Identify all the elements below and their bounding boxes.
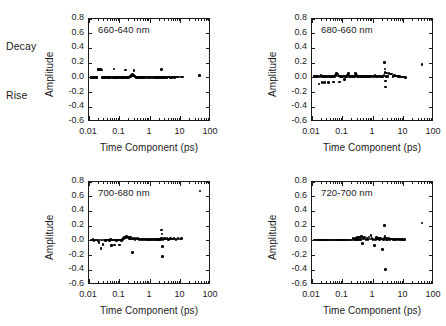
x-minor-tick bbox=[391, 118, 392, 120]
x-minor-tick bbox=[357, 118, 358, 120]
y-tick-label: 0.8 bbox=[275, 12, 307, 22]
x-minor-tick bbox=[118, 281, 119, 283]
x-tick-mark-top bbox=[403, 182, 404, 186]
data-point bbox=[161, 255, 164, 258]
x-minor-tick bbox=[164, 118, 165, 120]
x-minor-tick bbox=[173, 281, 174, 283]
y-tick-label: -0.6 bbox=[52, 278, 84, 288]
y-tick-mark-right bbox=[429, 240, 432, 241]
x-minor-tick-top bbox=[148, 182, 149, 184]
x-minor-tick bbox=[195, 281, 196, 283]
x-tick-mark-top bbox=[180, 19, 181, 23]
y-tick-label: 0.2 bbox=[275, 56, 307, 66]
x-minor-tick-top bbox=[396, 19, 397, 21]
x-minor-tick bbox=[335, 281, 336, 283]
data-point bbox=[160, 229, 163, 232]
x-tick-mark bbox=[180, 116, 181, 120]
x-tick-mark-top bbox=[119, 182, 120, 186]
y-tick-mark-right bbox=[206, 211, 209, 212]
data-point bbox=[118, 244, 121, 247]
y-tick-mark bbox=[89, 211, 92, 212]
panel-title: 680-660 nm bbox=[321, 24, 373, 35]
x-minor-tick-top bbox=[112, 182, 113, 184]
data-point bbox=[421, 222, 424, 225]
x-tick-mark bbox=[373, 279, 374, 283]
y-tick-mark-right bbox=[429, 196, 432, 197]
x-minor-tick bbox=[118, 118, 119, 120]
x-minor-tick bbox=[112, 281, 113, 283]
x-minor-tick-top bbox=[333, 182, 334, 184]
x-minor-tick bbox=[107, 281, 108, 283]
x-tick-mark bbox=[180, 279, 181, 283]
x-minor-tick-top bbox=[363, 182, 364, 184]
x-minor-tick-top bbox=[110, 19, 111, 21]
x-minor-tick bbox=[371, 118, 372, 120]
x-minor-tick bbox=[209, 118, 210, 120]
x-minor-tick bbox=[148, 281, 149, 283]
x-minor-tick-top bbox=[159, 182, 160, 184]
x-minor-tick bbox=[382, 281, 383, 283]
x-minor-tick bbox=[424, 118, 425, 120]
x-minor-tick bbox=[371, 281, 372, 283]
x-minor-tick-top bbox=[137, 182, 138, 184]
data-point bbox=[160, 68, 163, 71]
x-minor-tick bbox=[201, 118, 202, 120]
x-minor-tick bbox=[321, 281, 322, 283]
x-tick-mark-top bbox=[150, 182, 151, 186]
y-tick-mark-right bbox=[206, 77, 209, 78]
x-minor-tick-top bbox=[418, 182, 419, 184]
x-minor-tick-top bbox=[103, 182, 104, 184]
y-tick-mark-right bbox=[206, 270, 209, 271]
x-minor-tick bbox=[432, 118, 433, 120]
y-tick-mark bbox=[89, 63, 92, 64]
y-tick-label: -0.4 bbox=[275, 263, 307, 273]
x-minor-tick bbox=[198, 118, 199, 120]
x-minor-tick bbox=[360, 118, 361, 120]
x-minor-tick-top bbox=[195, 182, 196, 184]
x-minor-tick bbox=[103, 118, 104, 120]
x-minor-tick bbox=[333, 118, 334, 120]
x-minor-tick-top bbox=[418, 19, 419, 21]
x-minor-tick bbox=[128, 118, 129, 120]
x-minor-tick-top bbox=[360, 19, 361, 21]
x-minor-tick-top bbox=[326, 182, 327, 184]
x-minor-tick-top bbox=[387, 19, 388, 21]
data-point bbox=[113, 68, 116, 71]
x-minor-tick bbox=[134, 281, 135, 283]
y-tick-mark bbox=[89, 270, 92, 271]
x-minor-tick bbox=[363, 281, 364, 283]
x-minor-tick-top bbox=[351, 19, 352, 21]
data-point bbox=[102, 243, 105, 246]
x-axis-label: Time Component (ps) bbox=[88, 305, 210, 316]
x-minor-tick bbox=[363, 118, 364, 120]
x-tick-mark-top bbox=[342, 182, 343, 186]
x-minor-tick-top bbox=[201, 19, 202, 21]
x-tick-mark bbox=[342, 279, 343, 283]
y-tick-mark bbox=[89, 48, 92, 49]
y-tick-label: 0.2 bbox=[52, 219, 84, 229]
x-minor-tick-top bbox=[201, 182, 202, 184]
y-tick-mark-right bbox=[206, 255, 209, 256]
x-minor-tick bbox=[148, 118, 149, 120]
x-minor-tick bbox=[110, 281, 111, 283]
data-point bbox=[403, 238, 406, 241]
x-minor-tick-top bbox=[107, 19, 108, 21]
x-minor-tick-top bbox=[171, 19, 172, 21]
y-tick-label: -0.6 bbox=[52, 115, 84, 125]
x-minor-tick bbox=[394, 281, 395, 283]
panel-title: 720-700 nm bbox=[321, 187, 373, 198]
x-minor-tick bbox=[179, 118, 180, 120]
x-minor-tick-top bbox=[363, 19, 364, 21]
y-tick-mark bbox=[312, 196, 315, 197]
y-tick-mark-right bbox=[206, 92, 209, 93]
y-tick-label: 0.8 bbox=[52, 175, 84, 185]
x-tick-mark-top bbox=[119, 19, 120, 23]
x-tick-mark bbox=[312, 279, 313, 283]
x-minor-tick-top bbox=[140, 182, 141, 184]
x-minor-tick-top bbox=[98, 19, 99, 21]
x-minor-tick-top bbox=[371, 182, 372, 184]
x-tick-mark bbox=[119, 116, 120, 120]
y-tick-label: 0.6 bbox=[275, 190, 307, 200]
x-minor-tick-top bbox=[382, 19, 383, 21]
x-minor-tick-top bbox=[164, 182, 165, 184]
